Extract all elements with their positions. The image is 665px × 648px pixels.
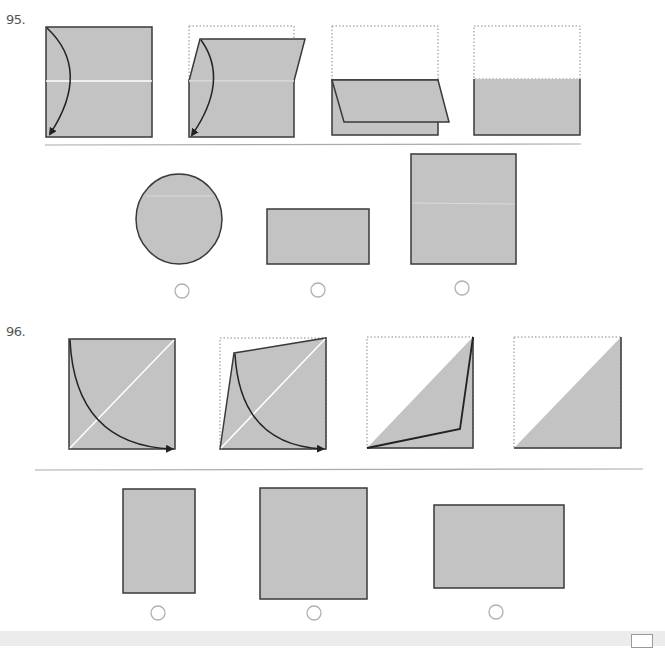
q96-radio-2[interactable] xyxy=(307,606,321,620)
bottom-toolbar xyxy=(0,631,665,646)
divider-95 xyxy=(45,144,581,145)
q95-option-circle[interactable] xyxy=(136,174,222,264)
q96-step1-diagram xyxy=(69,339,175,449)
page-control-box[interactable] xyxy=(631,634,653,648)
q95-step4-diagram xyxy=(474,26,580,135)
divider-96 xyxy=(35,469,643,470)
q96-radio-3[interactable] xyxy=(489,605,503,619)
q95-option-wide-rectangle[interactable] xyxy=(267,209,369,264)
q95-radio-1[interactable] xyxy=(175,284,189,298)
q95-option-square[interactable] xyxy=(411,154,516,264)
q95-step3-diagram xyxy=(332,26,449,135)
q95-step1-diagram xyxy=(46,27,152,137)
q96-option-tall-rectangle[interactable] xyxy=(123,489,195,593)
q96-option-wide-rectangle[interactable] xyxy=(434,505,564,588)
q95-step2-diagram xyxy=(189,26,305,137)
q95-radio-2[interactable] xyxy=(311,283,325,297)
q96-option-square[interactable] xyxy=(260,488,367,599)
q96-radio-1[interactable] xyxy=(151,606,165,620)
q95-radio-3[interactable] xyxy=(455,281,469,295)
q96-step4-diagram xyxy=(514,337,621,448)
q96-step3-diagram xyxy=(367,337,473,448)
q96-step2-diagram xyxy=(220,338,326,449)
